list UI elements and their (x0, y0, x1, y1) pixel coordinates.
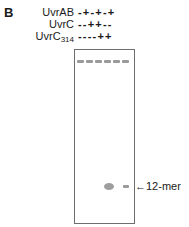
substrate-band-lane-1 (77, 60, 84, 63)
substrate-band-lane-2 (86, 60, 93, 63)
marker-12mer-label: ←12-mer (135, 180, 181, 192)
substrate-band-lane-6 (122, 60, 129, 63)
signs-uvrab: -+-+-+ (78, 6, 115, 18)
product-spot-lane-4 (104, 183, 114, 190)
substrate-band-lane-4 (104, 60, 111, 63)
row-label-uvrc314: UvrC314 (4, 30, 74, 46)
substrate-band-lane-5 (113, 60, 120, 63)
row-label-uvrc: UvrC (4, 18, 74, 30)
gel-image (74, 49, 135, 224)
substrate-band-lane-3 (95, 60, 102, 63)
signs-uvrc: --++-- (78, 18, 113, 30)
row-label-uvrab: UvrAB (4, 6, 74, 18)
signs-uvrc314: ----++ (78, 30, 113, 42)
product-band-lane-6 (123, 185, 129, 188)
